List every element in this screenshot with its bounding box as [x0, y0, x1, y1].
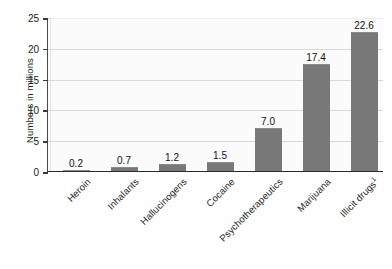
- x-axis-label-text: Illicit drugs: [338, 179, 378, 219]
- plot-area: 0510152025 0.20.71.21.57.017.422.6: [47, 18, 383, 172]
- y-axis-tick-label: 25: [28, 13, 39, 24]
- x-axis-label: Marijuana: [295, 176, 333, 214]
- plot-inner: 0510152025 0.20.71.21.57.017.422.6: [48, 18, 383, 171]
- x-axis-label: Inhalants: [105, 176, 141, 212]
- gridline: [48, 49, 383, 50]
- x-axis-label: Illicit drugs1: [338, 176, 381, 219]
- bar[interactable]: 1.5: [207, 162, 234, 171]
- gridline: [48, 80, 383, 81]
- bar[interactable]: 17.4: [303, 64, 330, 171]
- plot-frame: [50, 18, 383, 171]
- x-axis-label: Cocaine: [204, 176, 237, 209]
- y-axis-tick-mark: [43, 172, 48, 174]
- x-axis-label-text: Cocaine: [204, 176, 237, 209]
- x-axis-label-text: Hallucinogens: [138, 176, 189, 227]
- y-axis-tick-label: 0: [33, 167, 39, 178]
- bar[interactable]: 0.2: [63, 170, 90, 171]
- bar[interactable]: 0.7: [111, 167, 138, 171]
- y-axis-tick-mark: [43, 110, 48, 112]
- y-axis-tick-mark: [43, 49, 48, 51]
- x-axis-label-text: Inhalants: [105, 176, 141, 212]
- bar-value-label: 7.0: [261, 116, 275, 127]
- y-axis-tick-mark: [43, 80, 48, 82]
- gridline: [48, 110, 383, 111]
- x-axis-label-text: Marijuana: [295, 176, 333, 214]
- x-axis-label: Hallucinogens: [138, 176, 189, 227]
- bar-value-label: 0.2: [69, 158, 83, 169]
- gridline: [48, 141, 383, 142]
- y-axis-tick-mark: [43, 18, 48, 20]
- bar-value-label: 0.7: [117, 155, 131, 166]
- bar-chart: Numbers in millions 0510152025 0.20.71.2…: [0, 0, 392, 269]
- bar-value-label: 1.2: [165, 152, 179, 163]
- gridline: [48, 18, 383, 19]
- bar-value-label: 1.5: [213, 150, 227, 161]
- y-axis-tick-mark: [43, 141, 48, 143]
- bar-value-label: 17.4: [306, 52, 325, 63]
- y-axis-tick-label: 20: [28, 43, 39, 54]
- bar[interactable]: 22.6: [351, 32, 378, 171]
- x-axis-label-text: Heroin: [65, 176, 93, 204]
- bar[interactable]: 7.0: [255, 128, 282, 171]
- y-axis-tick-label: 5: [33, 136, 39, 147]
- bar[interactable]: 1.2: [159, 164, 186, 171]
- y-axis-tick-label: 15: [28, 74, 39, 85]
- x-axis-label: Heroin: [65, 176, 93, 204]
- bar-value-label: 22.6: [354, 20, 373, 31]
- y-axis-tick-label: 10: [28, 105, 39, 116]
